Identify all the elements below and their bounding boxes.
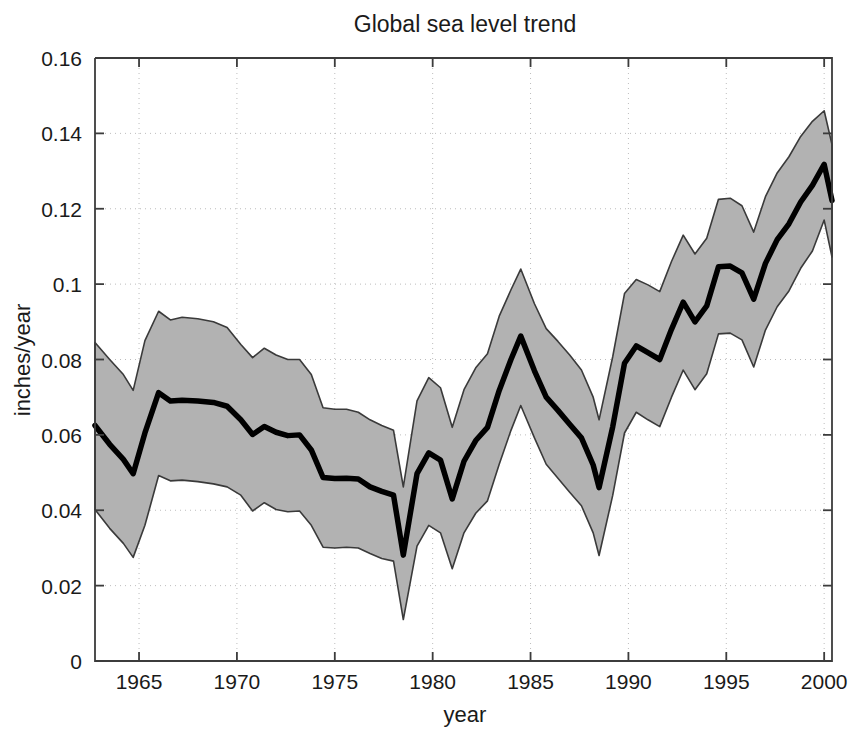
y-tick-labels: 00.020.040.060.080.10.120.140.16: [41, 47, 82, 673]
y-tick-label: 0.08: [41, 349, 82, 372]
x-tick-label: 1990: [605, 670, 652, 693]
y-tick-label: 0.02: [41, 575, 82, 598]
y-tick-label: 0.06: [41, 424, 82, 447]
x-tick-label: 1965: [116, 670, 163, 693]
x-tick-label: 1975: [311, 670, 358, 693]
y-tick-label: 0.1: [53, 273, 82, 296]
y-tick-label: 0.14: [41, 122, 82, 145]
x-axis-label: year: [444, 702, 487, 727]
chart-figure: 00.020.040.060.080.10.120.140.16 1965197…: [0, 0, 861, 734]
y-tick-label: 0.16: [41, 47, 82, 70]
sea-level-trend-chart: 00.020.040.060.080.10.120.140.16 1965197…: [0, 0, 861, 734]
x-tick-label: 1970: [214, 670, 261, 693]
x-tick-label: 1995: [703, 670, 750, 693]
y-tick-label: 0.04: [41, 499, 82, 522]
x-tick-label: 1985: [507, 670, 554, 693]
y-tick-label: 0: [70, 650, 82, 673]
x-tick-label: 2000: [801, 670, 848, 693]
x-tick-label: 1980: [409, 670, 456, 693]
y-axis-label: inches/year: [10, 304, 35, 417]
chart-title: Global sea level trend: [354, 11, 576, 37]
y-tick-label: 0.12: [41, 198, 82, 221]
